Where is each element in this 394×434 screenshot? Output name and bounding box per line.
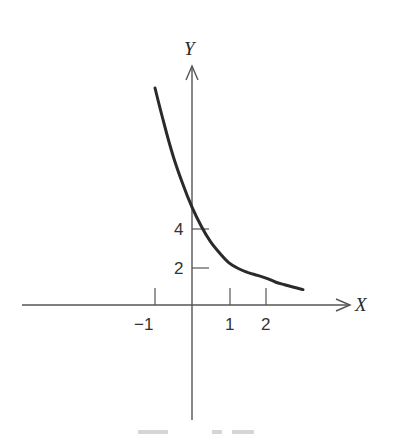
y-tick-label: 2 xyxy=(174,259,183,278)
x-axis: X xyxy=(22,294,368,315)
x-tick-label: −1 xyxy=(134,315,153,334)
x-tick-label: 2 xyxy=(261,315,270,334)
x-ticks: −1 1 2 xyxy=(134,288,270,334)
y-axis-label: Y xyxy=(184,38,197,59)
x-axis-label: X xyxy=(354,294,368,315)
chart-figure: X Y −1 1 2 4 2 xyxy=(0,0,394,434)
y-tick-label: 4 xyxy=(174,220,183,239)
x-tick-label: 1 xyxy=(225,315,234,334)
cropped-caption xyxy=(138,430,254,434)
